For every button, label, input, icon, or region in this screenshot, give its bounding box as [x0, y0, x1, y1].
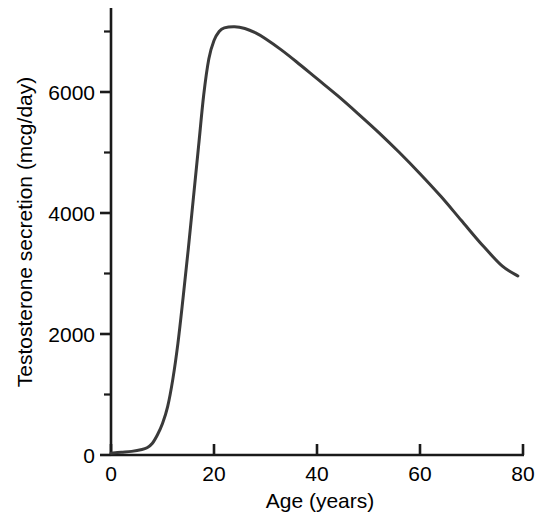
x-tick-label-80: 80 [511, 462, 534, 485]
y-tick-label-6000: 6000 [48, 81, 95, 104]
y-tick-label-4000: 4000 [48, 202, 95, 225]
x-axis-title: Age (years) [266, 489, 375, 512]
x-tick-label-60: 60 [408, 462, 431, 485]
x-tick-label-0: 0 [105, 462, 117, 485]
x-tick-label-20: 20 [202, 462, 225, 485]
x-tick-label-40: 40 [305, 462, 328, 485]
y-tick-label-2000: 2000 [48, 323, 95, 346]
chart-figure: 0 2000 4000 6000 0 20 40 60 80 Age (year… [0, 0, 544, 514]
y-tick-label-0: 0 [83, 444, 95, 467]
chart-background [0, 0, 544, 514]
y-axis-title: Testosterone secretion (mcg/day) [13, 77, 36, 387]
